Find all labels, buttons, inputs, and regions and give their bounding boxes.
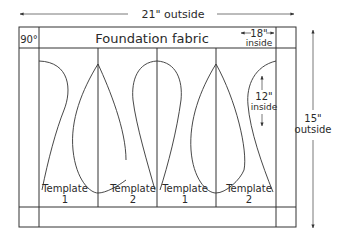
template-2-shape-right xyxy=(98,64,126,160)
outside-width-dimension: 21" outside xyxy=(20,8,294,21)
template-label-number: 1 xyxy=(182,194,188,205)
foundation-fabric-diagram: 21" outside 15" outside 90° Foundation f… xyxy=(0,0,350,238)
inside-width-word: inside xyxy=(246,38,273,48)
outside-height-word: outside xyxy=(295,124,332,135)
template-1-shape-b-right xyxy=(157,61,181,190)
outside-height-value: 15" xyxy=(304,113,321,124)
template-2-shape xyxy=(73,64,126,193)
template-2-shape-b xyxy=(191,64,245,193)
outside-width-label: 21" outside xyxy=(141,8,204,21)
template-1-shape-b xyxy=(133,61,157,190)
inside-width-dimension: 18" inside xyxy=(241,28,274,48)
corner-angle-label: 90° xyxy=(20,34,38,45)
inside-height-value: 12" xyxy=(255,91,272,102)
template-label-number: 2 xyxy=(246,194,252,205)
template-label-number: 1 xyxy=(62,194,68,205)
template-label-word: Template xyxy=(225,183,272,194)
foundation-fabric-label: Foundation fabric xyxy=(95,31,209,46)
template-label-number: 2 xyxy=(130,194,136,205)
template-label-word: Template xyxy=(41,183,88,194)
inside-height-dimension: 12" inside xyxy=(251,76,278,126)
template-1-shape xyxy=(39,61,68,190)
template-label-word: Template xyxy=(109,183,156,194)
inside-height-word: inside xyxy=(251,102,278,112)
outside-height-dimension: 15" outside xyxy=(295,30,332,228)
template-label-word: Template xyxy=(161,183,208,194)
